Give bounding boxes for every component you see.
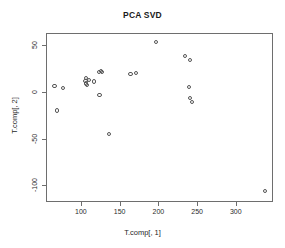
x-axis-tick-label: 100 bbox=[75, 208, 87, 215]
y-axis-tick-label: 50 bbox=[31, 38, 38, 52]
x-axis-tick-label: 200 bbox=[152, 208, 164, 215]
x-axis-tick bbox=[158, 202, 159, 206]
x-axis-label: T.comp[, 1] bbox=[0, 228, 285, 237]
y-axis-tick-label: 0 bbox=[31, 85, 38, 99]
y-axis-tick-label: -100 bbox=[31, 178, 38, 192]
x-axis-tick-label: 150 bbox=[114, 208, 126, 215]
x-axis-tick bbox=[120, 202, 121, 206]
y-axis-label: T.comp[, 2] bbox=[10, 76, 19, 156]
x-axis-tick-label: 250 bbox=[191, 208, 203, 215]
x-axis-tick-label: 300 bbox=[230, 208, 242, 215]
plot-frame bbox=[46, 33, 273, 202]
page-title: PCA SVD bbox=[0, 10, 285, 20]
pca-svd-scatter-plot: PCA SVD 100150200250300500-50-100 T.comp… bbox=[0, 0, 285, 248]
y-axis-tick-label: -50 bbox=[31, 132, 38, 146]
y-axis-tick bbox=[42, 139, 46, 140]
x-axis-tick bbox=[81, 202, 82, 206]
y-axis-tick bbox=[42, 92, 46, 93]
x-axis-tick bbox=[236, 202, 237, 206]
x-axis-tick bbox=[197, 202, 198, 206]
y-axis-tick bbox=[42, 45, 46, 46]
y-axis-tick bbox=[42, 185, 46, 186]
